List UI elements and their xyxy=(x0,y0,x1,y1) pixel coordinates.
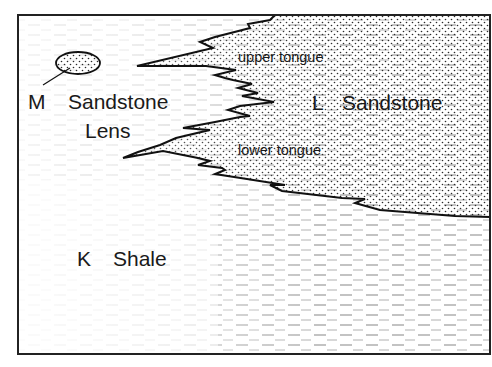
unit-l-letter: L xyxy=(312,91,324,114)
stratigraphy-diagram: upper tongue lower tongue L Sandstone M … xyxy=(0,0,492,367)
upper-tongue-label: upper tongue xyxy=(238,49,323,65)
unit-l-name: Sandstone xyxy=(342,91,442,114)
sandstone-unit-l xyxy=(100,15,490,217)
unit-m-name-line1: Sandstone xyxy=(68,90,168,113)
lower-tongue-label: lower tongue xyxy=(238,142,321,158)
unit-k-name: Shale xyxy=(113,247,167,270)
unit-m-letter: M xyxy=(28,90,46,113)
unit-k-letter: K xyxy=(77,247,91,270)
unit-m-name-line2: Lens xyxy=(85,119,131,142)
